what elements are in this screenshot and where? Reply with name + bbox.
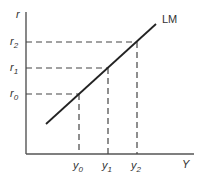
y2-label: y2: [130, 159, 142, 174]
y0-label: y0: [72, 159, 84, 174]
lm-line: [46, 24, 156, 124]
x-axis-label: Y: [182, 158, 190, 170]
r1-label: r1: [10, 61, 18, 76]
lm-label: LM: [162, 13, 177, 25]
r0-label: r0: [10, 87, 19, 102]
y1-label: y1: [101, 159, 112, 174]
r2-label: r2: [10, 35, 19, 50]
lm-curve-diagram: r Y LM r2 r1 r0 y0 y1 y2: [0, 0, 208, 178]
y-axis-label: r: [16, 8, 21, 20]
